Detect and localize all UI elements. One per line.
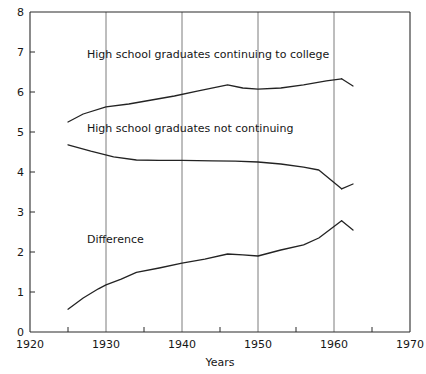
series-label-2: Difference	[87, 233, 144, 246]
series-end-branch-1	[342, 184, 353, 189]
axis-ticks	[30, 52, 372, 332]
x-tick-label-1920: 1920	[16, 338, 44, 351]
x-axis-title-label: Years	[204, 356, 234, 369]
series-label-0: High school graduates continuing to coll…	[87, 48, 330, 61]
x-axis-title: Years	[204, 356, 234, 369]
y-axis-tick-labels: 012345678	[17, 6, 24, 339]
series-end-branch-2	[342, 221, 353, 230]
data-series	[68, 79, 353, 309]
x-tick-label-1940: 1940	[168, 338, 196, 351]
series-end-branch-0	[342, 79, 353, 86]
y-tick-label-3: 3	[17, 206, 24, 219]
x-axis-tick-labels: 192019301940195019601970	[16, 338, 424, 351]
x-tick-label-1970: 1970	[396, 338, 424, 351]
y-tick-label-8: 8	[17, 6, 24, 19]
x-tick-label-1930: 1930	[92, 338, 120, 351]
series-annotations: High school graduates continuing to coll…	[87, 48, 330, 246]
series-label-1: High school graduates not continuing	[87, 122, 293, 135]
y-tick-label-1: 1	[17, 286, 24, 299]
line-chart: 012345678 192019301940195019601970 High …	[0, 0, 426, 374]
y-tick-label-4: 4	[17, 166, 24, 179]
x-tick-label-1960: 1960	[320, 338, 348, 351]
y-tick-label-7: 7	[17, 46, 24, 59]
x-tick-label-1950: 1950	[244, 338, 272, 351]
y-tick-label-2: 2	[17, 246, 24, 259]
series-line-0	[68, 79, 342, 122]
y-tick-label-6: 6	[17, 86, 24, 99]
y-tick-label-5: 5	[17, 126, 24, 139]
series-line-1	[68, 145, 342, 189]
chart-container: 012345678 192019301940195019601970 High …	[0, 0, 426, 374]
